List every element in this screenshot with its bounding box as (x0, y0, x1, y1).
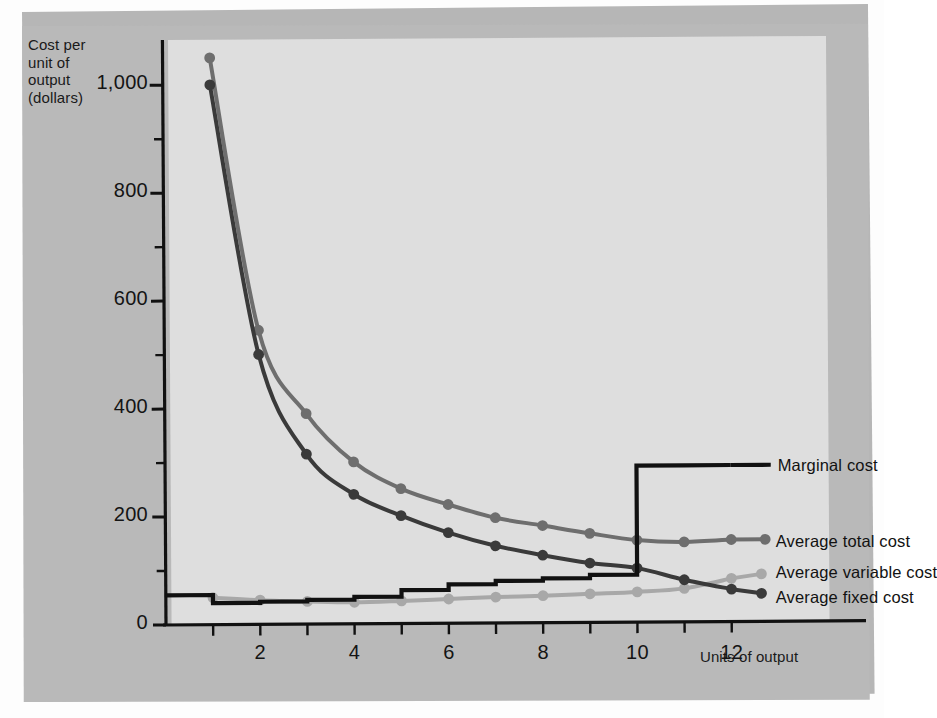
series-marker-average-fixed-cost (490, 540, 501, 551)
series-marker-average-total-cost (301, 408, 312, 419)
series-marker-average-total-cost (443, 499, 454, 510)
series-line-average-fixed-cost (210, 82, 732, 593)
x-axis-line (163, 621, 866, 625)
plot-group (149, 36, 866, 636)
series-marker-average-fixed-cost (204, 79, 215, 90)
legend-marker-average-fixed-cost (756, 588, 767, 599)
series-marker-average-fixed-cost (679, 574, 690, 585)
series-marker-average-total-cost (490, 512, 501, 523)
series-marker-average-total-cost (584, 528, 595, 539)
series-marker-average-total-cost (537, 520, 548, 531)
series-marker-average-variable-cost (538, 590, 549, 601)
legend-marker-average-variable-cost (756, 568, 767, 579)
series-marker-average-total-cost (204, 52, 215, 63)
series-marker-average-variable-cost (490, 592, 501, 603)
series-marker-average-fixed-cost (253, 349, 264, 360)
series-marker-average-fixed-cost (348, 489, 359, 500)
series-line-average-total-cost (210, 55, 732, 545)
series-marker-average-fixed-cost (443, 527, 454, 538)
series-marker-average-variable-cost (443, 594, 454, 605)
series-marker-average-total-cost (348, 456, 359, 467)
y-axis-line (162, 40, 166, 625)
series-marker-average-total-cost (395, 483, 406, 494)
legend-marker-average-total-cost (760, 534, 771, 545)
series-marker-average-variable-cost (632, 586, 643, 597)
series-marker-average-fixed-cost (301, 449, 312, 460)
series-marker-average-fixed-cost (396, 510, 407, 521)
series-marker-average-fixed-cost (537, 550, 548, 561)
series-marker-average-total-cost (679, 537, 690, 548)
series-marker-average-variable-cost (585, 588, 596, 599)
series-marker-average-fixed-cost (584, 558, 595, 569)
series-line-average-variable-cost (213, 578, 732, 603)
